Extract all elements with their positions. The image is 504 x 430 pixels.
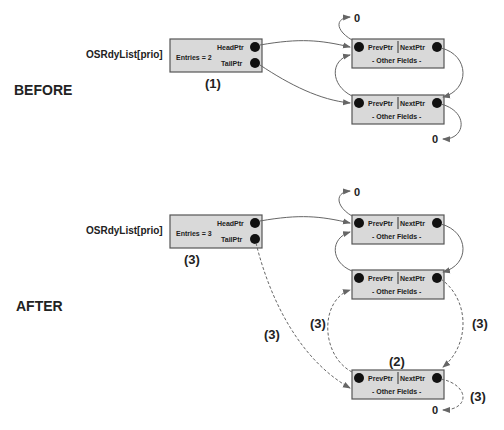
prev-link-annotation: (3) [310, 316, 326, 331]
before-node-1: PrevPtr NextPtr - Other Fields - [352, 39, 444, 68]
null-label: 0 [354, 12, 360, 24]
next-ptr-label: NextPtr [400, 220, 425, 227]
list-label-before: OSRdyList[prio] [86, 49, 163, 60]
prev-ptr-label: PrevPtr [368, 375, 393, 382]
step-3-label: (3) [184, 252, 200, 267]
tail-link-annotation: (3) [264, 327, 280, 342]
other-fields-label: - Other Fields - [372, 113, 422, 120]
prev-ptr-label: PrevPtr [368, 100, 393, 107]
prev-ptr-label: PrevPtr [368, 220, 393, 227]
before-node-2: PrevPtr NextPtr - Other Fields - [352, 95, 444, 124]
after-node-2: PrevPtr NextPtr - Other Fields - [352, 270, 444, 299]
head-ptr-label: HeadPtr [217, 44, 244, 51]
list-header-before: Entries = 2 HeadPtr TailPtr [170, 39, 262, 72]
next-ptr-dot [432, 42, 442, 52]
tail-ptr-label: TailPtr [221, 60, 243, 67]
null-label: 0 [432, 404, 438, 416]
null-link-annotation: (3) [470, 389, 486, 404]
ready-list-diagram: BEFORE OSRdyList[prio] Entries = 2 HeadP… [0, 0, 504, 430]
head-ptr-dot [250, 218, 260, 228]
after-label: AFTER [16, 298, 63, 314]
prev-ptr-dot [354, 273, 364, 283]
step-1-label: (1) [205, 76, 221, 91]
next-ptr-label: NextPtr [400, 44, 425, 51]
tail-ptr-dot [250, 234, 260, 244]
head-ptr-label: HeadPtr [217, 220, 244, 227]
next-ptr-label: NextPtr [400, 375, 425, 382]
next-ptr-label: NextPtr [400, 100, 425, 107]
entries-count: Entries = 2 [176, 54, 212, 61]
prev-ptr-dot [354, 218, 364, 228]
prev-ptr-label: PrevPtr [368, 275, 393, 282]
other-fields-label: - Other Fields - [372, 388, 422, 395]
before-label: BEFORE [14, 82, 72, 98]
prev-ptr-dot [354, 373, 364, 383]
head-ptr-dot [250, 42, 260, 52]
prev-ptr-dot [354, 42, 364, 52]
tail-ptr-dot [250, 58, 260, 68]
null-label: 0 [354, 186, 360, 198]
next-ptr-dot [432, 218, 442, 228]
next-link-annotation: (3) [472, 316, 488, 331]
prev-ptr-dot [354, 98, 364, 108]
entries-count: Entries = 3 [176, 230, 212, 237]
step-2-label: (2) [389, 354, 405, 369]
next-ptr-dot [432, 273, 442, 283]
list-label-after: OSRdyList[prio] [86, 225, 163, 236]
tail-ptr-label: TailPtr [221, 236, 243, 243]
null-label: 0 [432, 133, 438, 145]
other-fields-label: - Other Fields - [372, 57, 422, 64]
prev-ptr-label: PrevPtr [368, 44, 393, 51]
next-ptr-dot [432, 373, 442, 383]
other-fields-label: - Other Fields - [372, 233, 422, 240]
next-ptr-label: NextPtr [400, 275, 425, 282]
next-ptr-dot [432, 98, 442, 108]
after-node-3: PrevPtr NextPtr - Other Fields - [352, 370, 444, 399]
other-fields-label: - Other Fields - [372, 288, 422, 295]
list-header-after: Entries = 3 HeadPtr TailPtr [170, 215, 262, 248]
after-node-1: PrevPtr NextPtr - Other Fields - [352, 215, 444, 244]
